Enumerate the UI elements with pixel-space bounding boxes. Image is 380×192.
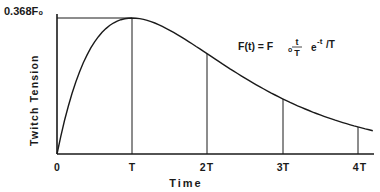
svg-text:-t: -t: [317, 37, 323, 46]
svg-text:/T: /T: [326, 39, 335, 50]
tick-2T: 2T: [200, 161, 214, 173]
y-peak-label: 0.368F₀: [4, 5, 43, 17]
tick-4T: 4T: [353, 161, 367, 173]
y-axis-label: Twitch Tension: [28, 54, 40, 146]
svg-text:F(t) = F: F(t) = F: [238, 40, 274, 52]
equation: F(t) = F o t T e -t /T: [238, 37, 335, 58]
svg-text:t: t: [296, 37, 299, 47]
tick-3T: 3T: [277, 161, 290, 173]
svg-text:T: T: [294, 48, 300, 58]
x-axis-label: Time: [169, 177, 202, 189]
twitch-tension-chart: 0.368F₀ Twitch Tension 0 T 2T 3T 4T Time…: [0, 0, 380, 192]
tick-T: T: [129, 161, 136, 173]
svg-text:o: o: [288, 46, 292, 53]
tick-0: 0: [54, 161, 60, 173]
